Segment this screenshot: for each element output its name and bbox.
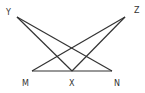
segment-ZM — [32, 17, 125, 71]
geometry-diagram: Y Z M X N — [0, 0, 145, 93]
label-M: M — [22, 79, 29, 88]
label-Y: Y — [5, 8, 11, 17]
label-Z: Z — [134, 6, 140, 15]
label-X: X — [69, 79, 75, 88]
label-N: N — [114, 79, 120, 88]
